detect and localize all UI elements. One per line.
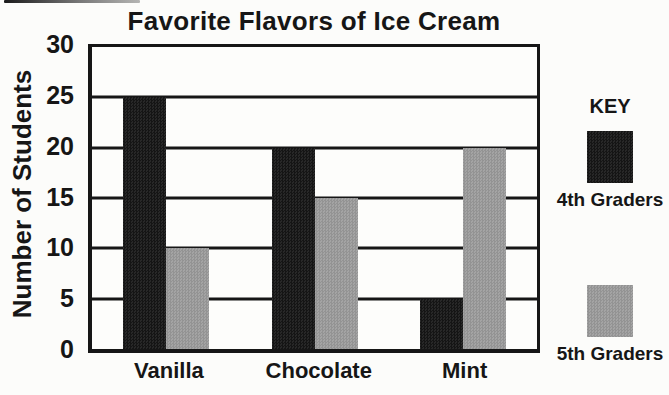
legend-item-5th-graders: 5th Graders <box>551 285 669 365</box>
legend-label-4th-graders: 4th Graders <box>551 189 669 211</box>
bar-4th-graders-chocolate <box>272 148 315 349</box>
bar-4th-graders-mint <box>420 299 463 349</box>
bar-5th-graders-chocolate <box>315 198 358 349</box>
y-tick-label-25: 25 <box>46 82 74 107</box>
y-tick-label-0: 0 <box>60 337 74 362</box>
x-axis-label-vanilla: Vanilla <box>134 358 204 384</box>
legend-swatch-5th-graders <box>587 285 633 337</box>
y-tick-label-30: 30 <box>46 32 74 57</box>
bar-chart-figure: Favorite Flavors of Ice Cream Number of … <box>0 0 669 395</box>
bar-4th-graders-vanilla <box>123 97 166 349</box>
x-axis-label-chocolate: Chocolate <box>266 358 372 384</box>
y-tick-label-20: 20 <box>46 133 74 158</box>
x-axis-label-mint: Mint <box>442 358 487 384</box>
y-tick-label-15: 15 <box>46 184 74 209</box>
y-axis-ticks: 051015202530 <box>0 45 80 350</box>
bar-5th-graders-vanilla <box>166 248 209 349</box>
chart-title: Favorite Flavors of Ice Cream <box>88 6 540 37</box>
y-tick-label-5: 5 <box>60 286 74 311</box>
legend: KEY 4th Graders 5th Graders <box>551 95 669 365</box>
legend-swatch-4th-graders <box>587 131 633 183</box>
x-axis-labels: VanillaChocolateMint <box>92 358 537 390</box>
scan-artifact <box>4 0 140 3</box>
legend-title: KEY <box>551 95 669 117</box>
y-tick-label-10: 10 <box>46 235 74 260</box>
legend-item-4th-graders: 4th Graders <box>551 131 669 211</box>
legend-label-5th-graders: 5th Graders <box>551 343 669 365</box>
bar-5th-graders-mint <box>463 148 506 349</box>
plot-area <box>88 44 540 353</box>
